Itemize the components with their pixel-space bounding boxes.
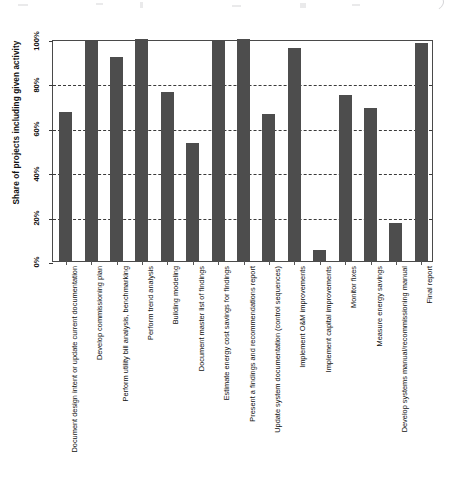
bar: [135, 39, 148, 261]
x-tick-mark: [244, 261, 245, 265]
bar: [161, 92, 174, 261]
x-axis-label: Monitor fixes: [348, 266, 359, 492]
bar: [110, 57, 123, 261]
bar: [339, 95, 352, 262]
bar: [415, 43, 428, 261]
x-tick-mark: [218, 261, 219, 265]
y-tick-mark-40: [49, 174, 53, 175]
bar: [85, 41, 98, 261]
y-tick-mark-0: [49, 263, 53, 264]
x-axis-label: Building modeling: [170, 266, 181, 492]
y-tick-label-40: 40%: [32, 159, 42, 189]
y-tick-label-100: 100%: [32, 26, 42, 56]
x-tick-mark: [117, 261, 118, 265]
bar: [288, 48, 301, 261]
y-axis-title: Share of projects including given activi…: [12, 23, 21, 223]
bar: [212, 41, 225, 261]
bar-chart: Share of projects including given activi…: [0, 0, 450, 498]
x-axis-label: Perform trend analysis: [145, 266, 156, 492]
x-tick-mark: [320, 261, 321, 265]
x-axis-label: Implement O&M improvements: [297, 266, 308, 492]
x-tick-mark: [421, 261, 422, 265]
bar: [59, 112, 72, 261]
y-tick-mark-100: [49, 41, 53, 42]
bar: [313, 250, 326, 261]
x-axis-label: Present a findings and recommendations r…: [247, 266, 258, 492]
x-axis-label: Develop commissioning plan: [94, 266, 105, 492]
y-tick-mark-20: [49, 219, 53, 220]
bar: [364, 108, 377, 261]
x-tick-mark: [91, 261, 92, 265]
x-tick-mark: [294, 261, 295, 265]
x-axis-label: Perform utility bill analysis, benchmark…: [120, 266, 131, 492]
x-axis-label: Final report: [424, 266, 435, 492]
bar: [262, 114, 275, 261]
y-tick-label-60: 60%: [32, 114, 42, 144]
x-axis-labels: Document design intent or update current…: [52, 266, 433, 496]
x-tick-mark: [345, 261, 346, 265]
x-axis-label: Update system documentation (control seq…: [272, 266, 283, 492]
x-axis-label: Estimate energy cost savings for finding…: [221, 266, 232, 492]
y-tick-label-80: 80%: [32, 70, 42, 100]
y-tick-mark-80: [49, 85, 53, 86]
x-tick-mark: [396, 261, 397, 265]
bar: [237, 39, 250, 261]
x-axis-label: Document master list of findings: [196, 266, 207, 492]
x-axis-label: Implement capital improvements: [323, 266, 334, 492]
bar: [389, 223, 402, 261]
x-axis-label: Document design intent or update current…: [69, 266, 80, 492]
y-tick-mark-60: [49, 130, 53, 131]
x-axis-label: Measure energy savings: [374, 266, 385, 492]
x-tick-mark: [269, 261, 270, 265]
x-tick-mark: [66, 261, 67, 265]
x-tick-mark: [371, 261, 372, 265]
y-tick-label-20: 20%: [32, 203, 42, 233]
plot-area: [52, 40, 433, 262]
x-tick-mark: [142, 261, 143, 265]
x-tick-mark: [167, 261, 168, 265]
x-axis-label: Develop systems manual/recommissioning m…: [399, 266, 410, 492]
bar: [186, 143, 199, 261]
x-tick-mark: [193, 261, 194, 265]
y-tick-label-0: 0%: [32, 247, 42, 277]
